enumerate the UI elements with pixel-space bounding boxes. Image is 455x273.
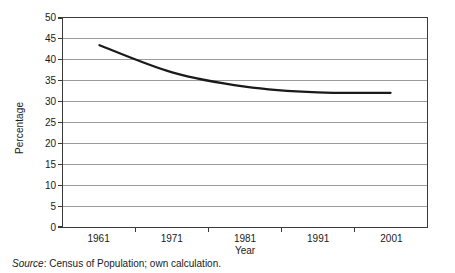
x-tick-label: 1981	[215, 233, 275, 245]
source-text: : Census of Population; own calculation.	[44, 258, 221, 269]
source-caption: Source: Census of Population; own calcul…	[12, 258, 221, 270]
y-axis-title: Percentage	[14, 78, 28, 178]
y-tick-label: 35	[30, 76, 56, 86]
x-axis-title: Year	[62, 245, 428, 256]
y-tick-label: 20	[30, 139, 56, 149]
y-tick-label: 5	[30, 202, 56, 212]
x-tick-label: 1991	[288, 233, 348, 245]
plot-area	[62, 17, 428, 228]
y-tick-label: 45	[30, 34, 56, 44]
data-series-line	[63, 18, 427, 227]
x-tick-label: 1961	[69, 233, 129, 245]
y-tick-label: 30	[30, 97, 56, 107]
y-tick-label: 0	[30, 223, 56, 233]
y-tick-label: 15	[30, 160, 56, 170]
y-tick-label: 50	[30, 13, 56, 23]
x-tick-label: 2001	[361, 233, 421, 245]
source-label: Source	[12, 258, 44, 269]
series-path-percentage	[99, 45, 390, 93]
y-tick-label: 25	[30, 118, 56, 128]
y-axis-tick-labels: 50 45 40 35 30 25 20 15 10 5 0	[28, 0, 56, 273]
figure: Percentage 50 45 40 35 30 25 20 15 10 5 …	[0, 0, 455, 273]
x-tick-label: 1971	[142, 233, 202, 245]
y-tick-label: 40	[30, 55, 56, 65]
y-tick-label: 10	[30, 181, 56, 191]
